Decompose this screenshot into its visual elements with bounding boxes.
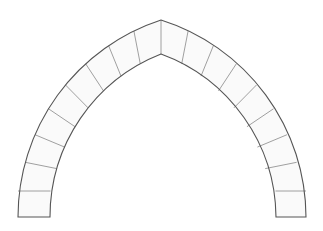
voussoir-group xyxy=(18,20,306,217)
pointed-arch-diagram xyxy=(0,0,323,231)
arch-stone-fill xyxy=(18,20,306,217)
